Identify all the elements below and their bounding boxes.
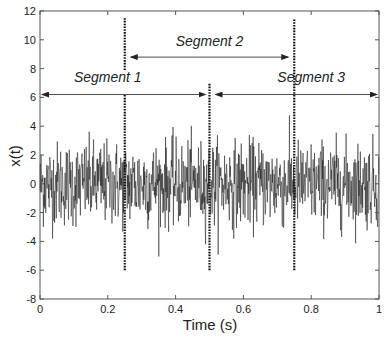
x-tick-label: 0.8 bbox=[304, 303, 319, 315]
x-tick-label: 0.4 bbox=[168, 303, 183, 315]
y-tick-label: 10 bbox=[24, 34, 36, 46]
x-axis-label: Time (s) bbox=[183, 316, 237, 333]
segment-1-label: Segment 1 bbox=[74, 69, 142, 85]
signal-chart: 00.20.40.60.81-8-6-4-2024681012 Segment … bbox=[0, 0, 388, 344]
y-tick-label: 4 bbox=[30, 120, 36, 132]
x-tick-label: 0.2 bbox=[100, 303, 115, 315]
x-tick-label: 1 bbox=[376, 303, 382, 315]
segment-3-label: Segment 3 bbox=[277, 69, 345, 85]
y-axis-label: x(t) bbox=[6, 145, 23, 167]
y-tick-label: 12 bbox=[24, 5, 36, 17]
y-tick-label: -4 bbox=[26, 235, 36, 247]
segment-2-label: Segment 2 bbox=[176, 33, 244, 49]
y-tick-label: -2 bbox=[26, 207, 36, 219]
segment-boundaries bbox=[125, 18, 295, 270]
x-tick-label: 0 bbox=[37, 303, 43, 315]
x-tick-label: 0.6 bbox=[236, 303, 251, 315]
y-tick-label: 8 bbox=[30, 63, 36, 75]
y-tick-label: -8 bbox=[26, 293, 36, 305]
y-tick-label: -6 bbox=[26, 264, 36, 276]
y-tick-label: 6 bbox=[30, 91, 36, 103]
y-tick-label: 0 bbox=[30, 178, 36, 190]
y-tick-label: 2 bbox=[30, 149, 36, 161]
